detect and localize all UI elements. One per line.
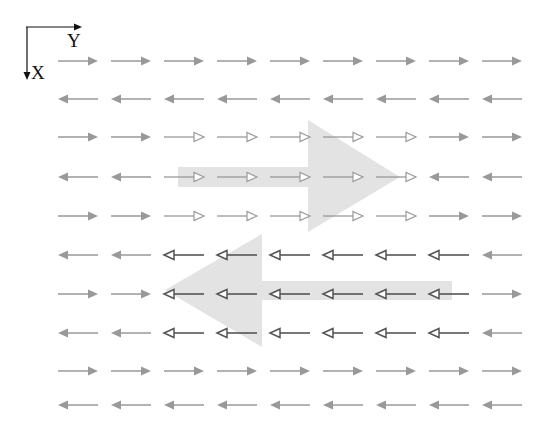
arrow-right-icon	[164, 57, 204, 66]
arrow-left-icon	[270, 401, 310, 410]
arrow-right-icon	[217, 57, 257, 66]
arrow-right-icon	[270, 367, 310, 376]
arrow-left-icon	[164, 401, 204, 410]
big-arrows-layer	[165, 120, 452, 347]
arrow-left-icon	[429, 329, 469, 338]
arrow-left-icon	[217, 401, 257, 410]
arrow-right-icon	[376, 57, 416, 66]
y-axis-label: Y	[67, 30, 81, 52]
arrow-right-icon	[482, 133, 522, 142]
arrow-right-icon	[429, 133, 469, 142]
arrow-right-icon	[58, 133, 98, 142]
arrow-left-icon	[482, 173, 522, 182]
x-axis-arrowhead-icon	[24, 72, 31, 80]
arrow-left-icon	[482, 401, 522, 410]
arrow-right-icon	[164, 212, 204, 221]
arrow-right-icon	[58, 57, 98, 66]
arrow-right-icon	[482, 57, 522, 66]
arrow-left-icon	[376, 329, 416, 338]
arrow-left-icon	[111, 329, 151, 338]
arrow-left-icon	[164, 95, 204, 104]
arrow-right-icon	[429, 212, 469, 221]
arrow-right-icon	[376, 133, 416, 142]
arrow-right-icon	[111, 57, 151, 66]
arrow-right-icon	[482, 367, 522, 376]
arrow-left-icon	[111, 173, 151, 182]
arrow-left-icon	[429, 95, 469, 104]
arrow-right-icon	[376, 367, 416, 376]
arrow-right-icon	[429, 57, 469, 66]
arrow-left-icon	[58, 251, 98, 260]
arrow-right-icon	[58, 290, 98, 299]
arrow-left-icon	[164, 251, 204, 260]
arrow-right-icon	[323, 367, 363, 376]
small-arrows-grid	[58, 57, 522, 410]
arrow-right-icon	[58, 212, 98, 221]
arrow-left-icon	[58, 401, 98, 410]
spin-arrow-diagram	[0, 0, 549, 433]
arrow-left-icon	[376, 251, 416, 260]
x-axis-label: X	[31, 62, 45, 84]
arrow-left-icon	[323, 329, 363, 338]
arrow-right-icon	[111, 133, 151, 142]
arrow-left-icon	[376, 95, 416, 104]
arrow-right-icon	[270, 57, 310, 66]
arrow-right-icon	[217, 367, 257, 376]
arrow-left-icon	[217, 95, 257, 104]
arrow-left-icon	[482, 95, 522, 104]
arrow-right-icon	[111, 367, 151, 376]
arrow-right-icon	[164, 133, 204, 142]
arrow-left-icon	[164, 329, 204, 338]
arrow-right-icon	[429, 367, 469, 376]
arrow-left-icon	[376, 401, 416, 410]
arrow-left-icon	[270, 329, 310, 338]
arrow-left-icon	[429, 401, 469, 410]
arrow-left-icon	[270, 95, 310, 104]
arrow-left-icon	[429, 251, 469, 260]
arrow-left-icon	[429, 173, 469, 182]
arrow-left-icon	[111, 95, 151, 104]
arrow-left-icon	[323, 95, 363, 104]
arrow-right-icon	[111, 212, 151, 221]
arrow-left-icon	[58, 173, 98, 182]
arrow-left-icon	[58, 95, 98, 104]
arrow-right-icon	[164, 367, 204, 376]
arrow-right-icon	[270, 212, 310, 221]
arrow-left-icon	[111, 251, 151, 260]
arrow-right-icon	[482, 290, 522, 299]
arrow-right-icon	[111, 290, 151, 299]
arrow-right-icon	[323, 57, 363, 66]
arrow-right-icon	[482, 212, 522, 221]
arrow-right-icon	[376, 212, 416, 221]
arrow-right-icon	[270, 133, 310, 142]
arrow-right-icon	[217, 133, 257, 142]
arrow-left-icon	[58, 329, 98, 338]
arrow-right-icon	[217, 212, 257, 221]
arrow-left-icon	[111, 401, 151, 410]
arrow-left-icon	[323, 401, 363, 410]
big-left-arrow-icon	[165, 234, 452, 347]
arrow-left-icon	[270, 251, 310, 260]
arrow-right-icon	[58, 367, 98, 376]
arrow-left-icon	[482, 329, 522, 338]
arrow-left-icon	[323, 251, 363, 260]
arrow-left-icon	[482, 251, 522, 260]
